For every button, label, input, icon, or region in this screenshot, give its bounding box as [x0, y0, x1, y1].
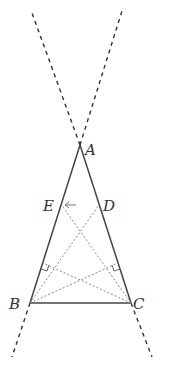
label-e: E — [42, 197, 54, 215]
label-b: B — [8, 295, 20, 313]
segment-ce — [63, 207, 131, 303]
perpendicular-b-to-ac — [30, 263, 118, 303]
side-ab — [30, 145, 80, 303]
extension-line-ab-above-a — [32, 13, 80, 145]
label-a: A — [83, 141, 96, 159]
label-c: C — [133, 295, 145, 313]
geometry-diagram: A B C D E — [0, 0, 172, 372]
segment-bd — [30, 205, 99, 303]
perpendicular-c-to-ab — [43, 263, 131, 303]
extension-line-ac-above-a — [80, 11, 122, 145]
side-ac — [80, 145, 131, 303]
label-d: D — [102, 197, 115, 215]
